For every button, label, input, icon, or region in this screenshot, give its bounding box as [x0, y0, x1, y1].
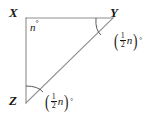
- fraction-z-numerator: 1: [51, 93, 57, 101]
- fraction-z: 1 2: [51, 93, 57, 111]
- angle-y-expression: ( 1 2 n ) °: [113, 31, 142, 50]
- fraction-y: 1 2: [120, 32, 126, 50]
- angle-y-degree-symbol: °: [139, 37, 142, 44]
- vertex-label-x: X: [9, 6, 18, 19]
- left-paren-y: (: [114, 31, 118, 50]
- angle-label-y: ( 1 2 n ) °: [113, 31, 142, 50]
- left-paren-z: (: [45, 92, 49, 111]
- angle-z-expression: ( 1 2 n ) °: [44, 92, 73, 111]
- angle-arc-y: [96, 18, 101, 35]
- triangle-drawing: [0, 0, 146, 120]
- vertex-label-y: Y: [110, 6, 118, 19]
- right-paren-y: ): [133, 31, 137, 50]
- angle-label-x: n°: [30, 20, 39, 33]
- fraction-z-denominator: 2: [51, 101, 57, 110]
- angle-y-variable: n: [127, 35, 133, 46]
- fraction-y-denominator: 2: [120, 40, 126, 49]
- vertex-label-z: Z: [9, 94, 17, 107]
- angle-label-z: ( 1 2 n ) °: [44, 92, 73, 111]
- angle-x-degree-symbol: °: [36, 19, 39, 28]
- angle-z-degree-symbol: °: [70, 98, 73, 105]
- fraction-y-numerator: 1: [120, 32, 126, 40]
- side-zy-hypotenuse: [26, 18, 113, 103]
- geometry-figure: X Y Z n° ( 1 2 n ) ° ( 1 2 n ) °: [0, 0, 146, 120]
- right-paren-z: ): [64, 92, 68, 111]
- angle-z-variable: n: [58, 96, 64, 107]
